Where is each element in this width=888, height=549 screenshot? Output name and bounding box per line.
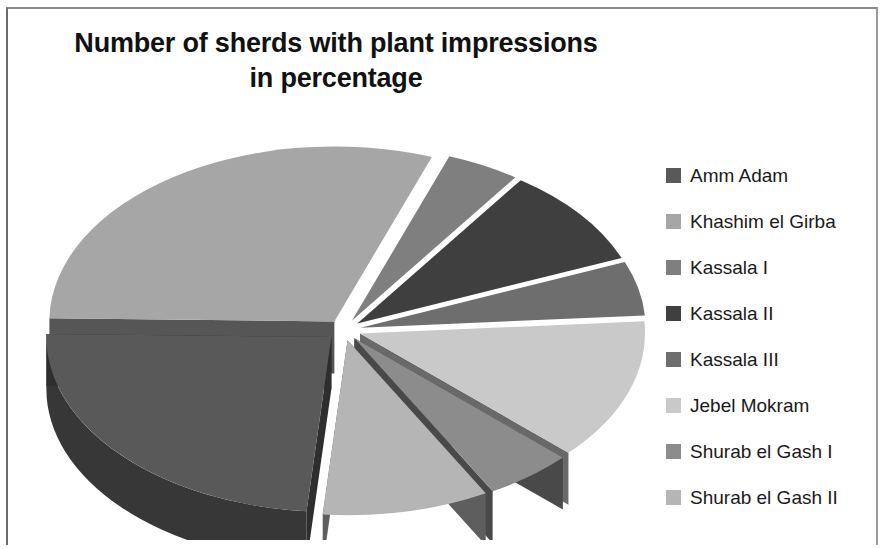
legend-item[interactable]: Khashim el Girba xyxy=(666,198,882,244)
legend-item[interactable]: Kassala I xyxy=(666,244,882,290)
legend-item-label: Shurab el Gash I xyxy=(690,442,833,461)
legend-swatch-icon xyxy=(666,306,681,321)
legend-item[interactable]: Shurab el Gash II xyxy=(666,474,882,520)
legend-item[interactable]: Shurab el Gash I xyxy=(666,428,882,474)
chart-legend: Amm Adam Khashim el Girba Kassala I Kass… xyxy=(666,152,882,520)
chart-figure: Number of sherds with plant impressions … xyxy=(0,0,888,549)
chart-title-line-1: Number of sherds with plant impressions xyxy=(36,26,636,61)
legend-item-label: Kassala I xyxy=(690,258,768,277)
pie-chart-plot-area xyxy=(14,140,654,540)
pie-slice[interactable] xyxy=(46,334,331,511)
legend-item-label: Khashim el Girba xyxy=(690,212,836,231)
legend-item-label: Kassala III xyxy=(690,350,779,369)
legend-item[interactable]: Jebel Mokram xyxy=(666,382,882,428)
legend-swatch-icon xyxy=(666,214,681,229)
legend-swatch-icon xyxy=(666,444,681,459)
chart-title-line-2: in percentage xyxy=(36,61,636,96)
legend-item-label: Amm Adam xyxy=(690,166,788,185)
legend-swatch-icon xyxy=(666,168,681,183)
legend-item[interactable]: Amm Adam xyxy=(666,152,882,198)
legend-swatch-icon xyxy=(666,398,681,413)
legend-item[interactable]: Kassala II xyxy=(666,290,882,336)
legend-item-label: Shurab el Gash II xyxy=(690,488,838,507)
legend-item-label: Jebel Mokram xyxy=(690,396,809,415)
pie-chart-svg xyxy=(14,140,654,540)
legend-swatch-icon xyxy=(666,260,681,275)
legend-item-label: Kassala II xyxy=(690,304,773,323)
legend-swatch-icon xyxy=(666,352,681,367)
legend-swatch-icon xyxy=(666,490,681,505)
legend-item[interactable]: Kassala III xyxy=(666,336,882,382)
page-title: Number of sherds with plant impressions … xyxy=(36,26,636,96)
